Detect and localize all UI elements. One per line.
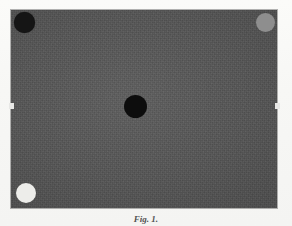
marker-top-left xyxy=(14,12,35,33)
marker-center xyxy=(124,95,147,118)
figure-caption: Fig. 1. xyxy=(0,214,292,225)
caption-label: Fig. 1. xyxy=(134,214,158,224)
tick-left xyxy=(9,103,14,109)
figure-page: Fig. 1. xyxy=(0,0,292,226)
figure-image-panel xyxy=(11,10,277,208)
marker-bottom-left xyxy=(16,183,36,203)
marker-top-right xyxy=(256,13,275,32)
tick-right xyxy=(275,103,280,109)
